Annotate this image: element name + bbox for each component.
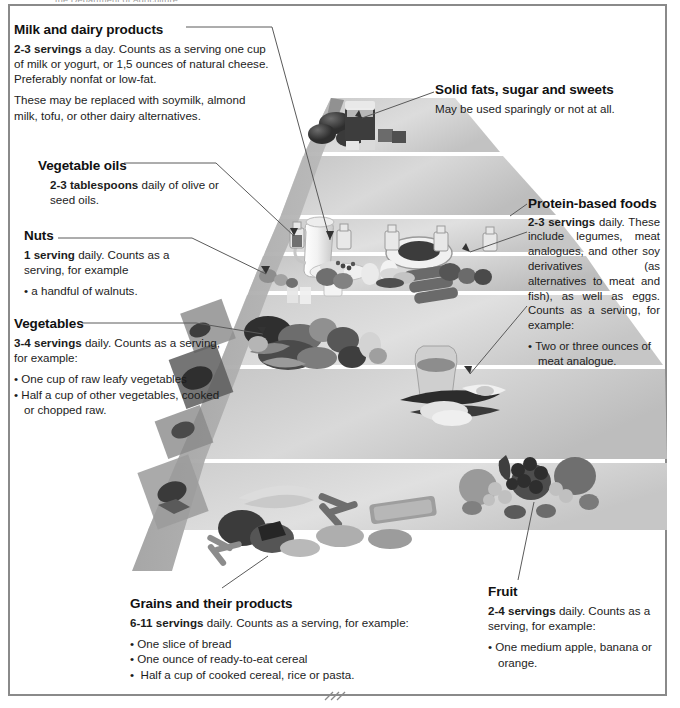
list-item: One ounce of ready-to-eat cereal [130, 651, 460, 667]
list-item: Half a cup of other vegetables, cooked o… [14, 387, 229, 418]
callout-dairy-body2: These may be replaced with soymilk, almo… [14, 92, 272, 123]
callout-protein-heading: Protein-based foods [528, 196, 660, 212]
callout-vegetable-oils: Vegetable oils 2-3 tablespoons daily of … [38, 158, 228, 207]
callout-vegetables-lead: 3-4 servings [14, 336, 82, 349]
callout-protein: Protein-based foods 2-3 servings daily. … [528, 196, 660, 369]
callout-sweets: Solid fats, sugar and sweets May be used… [435, 82, 650, 116]
list-item: Half a cup of cooked cereal, rice or pas… [130, 667, 460, 683]
callout-vegetables-heading: Vegetables [14, 316, 229, 332]
callout-dairy: Milk and dairy products 2-3 servings a d… [14, 22, 272, 123]
callout-dairy-heading: Milk and dairy products [14, 22, 272, 38]
callout-fruit: Fruit 2-4 servings daily. Counts as a se… [488, 584, 660, 670]
callout-oils-body: 2-3 tablespoons daily of olive or seed o… [38, 177, 228, 208]
callout-dairy-lead: 2-3 servings [14, 42, 82, 55]
callout-protein-list: Two or three ounces of meat analogue. [528, 339, 660, 369]
callout-nuts-body: 1 serving daily. Counts as a serving, fo… [24, 247, 204, 278]
callout-grains: Grains and their products 6-11 servings … [130, 596, 460, 682]
callout-protein-body: 2-3 servings daily. These include legume… [528, 215, 660, 334]
callout-oils-heading: Vegetable oils [38, 158, 228, 174]
callout-nuts-heading: Nuts [24, 228, 204, 244]
cut-off-header: the Department of Agriculture... [55, 0, 186, 2]
callout-nuts-lead: 1 serving [24, 248, 75, 261]
callout-sweets-heading: Solid fats, sugar and sweets [435, 82, 650, 98]
list-item: One cup of raw leafy vegetables [14, 371, 229, 387]
callout-grains-body: 6-11 servings daily. Counts as a serving… [130, 615, 460, 630]
list-item: Two or three ounces of meat analogue. [528, 339, 660, 369]
callout-nuts-list: a handful of walnuts. [24, 283, 204, 299]
callout-protein-lead: 2-3 servings [528, 216, 595, 228]
callout-grains-lead: 6-11 servings [130, 616, 203, 629]
callout-oils-lead: 2-3 tablespoons [50, 178, 138, 191]
callout-sweets-body: May be used sparingly or not at all. [435, 101, 650, 116]
list-item: One slice of bread [130, 636, 460, 652]
list-item: One medium apple, banana or orange. [488, 639, 660, 670]
callout-grains-heading: Grains and their products [130, 596, 460, 612]
callout-vegetables: Vegetables 3-4 servings daily. Counts as… [14, 316, 229, 418]
callout-fruit-lead: 2-4 servings [488, 604, 556, 617]
callout-fruit-body: 2-4 servings daily. Counts as a serving,… [488, 603, 660, 634]
callout-fruit-heading: Fruit [488, 584, 660, 600]
callout-vegetables-list: One cup of raw leafy vegetables Half a c… [14, 371, 229, 418]
callout-fruit-list: One medium apple, banana or orange. [488, 639, 660, 670]
callout-vegetables-body: 3-4 servings daily. Counts as a serving,… [14, 335, 229, 366]
callout-grains-list: One slice of bread One ounce of ready-to… [130, 636, 460, 683]
callout-nuts: Nuts 1 serving daily. Counts as a servin… [24, 228, 204, 299]
list-item: a handful of walnuts. [24, 283, 204, 299]
callout-dairy-body: 2-3 servings a day. Counts as a serving … [14, 41, 272, 87]
